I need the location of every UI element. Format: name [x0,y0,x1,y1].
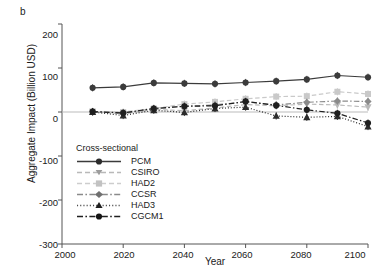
legend-item-pcm[interactable]: PCM [76,156,164,167]
plot-area [0,0,375,274]
series-had3 [89,103,372,130]
legend-swatch-ccsr [76,189,122,200]
chart-figure: b Aggregate Impact (Billion USD) Year 20… [0,0,375,274]
legend-label-csiro: CSIRO [131,167,160,178]
legend-item-cgcm1[interactable]: CGCM1 [76,211,164,222]
legend-swatch-had2 [76,178,122,189]
legend-title: Cross-sectional [76,143,164,153]
legend-label-ccsr: CCSR [131,189,157,200]
data-series-layer [89,72,372,130]
legend-item-ccsr[interactable]: CCSR [76,189,164,200]
series-pcm [90,72,372,92]
legend-swatch-had3 [76,200,122,211]
legend-item-csiro[interactable]: CSIRO [76,167,164,178]
legend-item-had2[interactable]: HAD2 [76,178,164,189]
legend-item-had3[interactable]: HAD3 [76,200,164,211]
legend-label-had3: HAD3 [131,200,155,211]
legend: Cross-sectional PCM CSIRO HAD2 [76,143,164,222]
legend-swatch-cgcm1 [76,211,122,222]
legend-swatch-pcm [76,156,122,167]
legend-label-had2: HAD2 [131,178,155,189]
legend-label-cgcm1: CGCM1 [131,211,164,222]
legend-swatch-csiro [76,167,122,178]
legend-label-pcm: PCM [131,156,151,167]
